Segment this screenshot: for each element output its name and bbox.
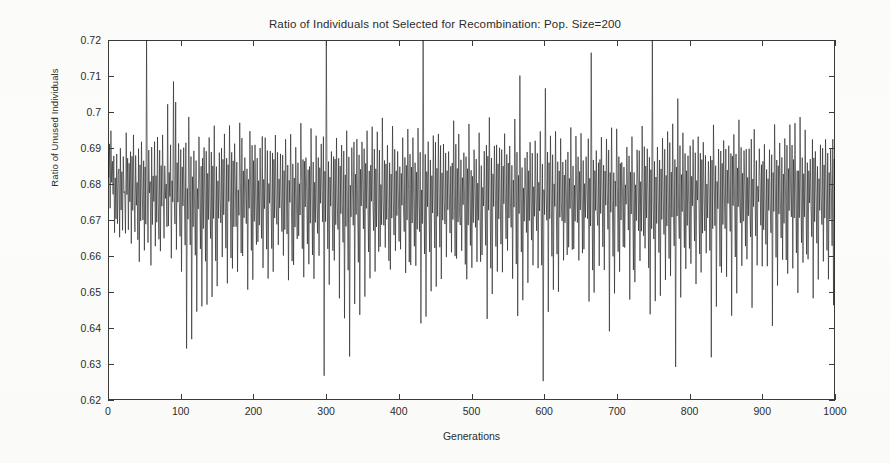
y-tick-mark	[829, 256, 835, 257]
y-tick-label: 0.68	[81, 178, 101, 190]
x-tick-mark	[253, 394, 254, 400]
y-tick-label: 0.65	[81, 286, 101, 298]
y-axis-label: Ratio of Unused Individuals	[49, 28, 60, 228]
y-tick-mark	[108, 184, 114, 185]
x-tick-mark	[472, 40, 473, 46]
y-tick-mark	[829, 76, 835, 77]
x-tick-label: 800	[681, 405, 699, 417]
chart-figure: Ratio of Individuals not Selected for Re…	[0, 0, 890, 463]
x-tick-mark	[762, 394, 763, 400]
y-tick-mark	[108, 76, 114, 77]
x-tick-mark	[472, 394, 473, 400]
x-tick-label: 900	[754, 405, 772, 417]
y-tick-label: 0.64	[81, 322, 101, 334]
x-tick-mark	[617, 40, 618, 46]
x-tick-label: 100	[172, 405, 190, 417]
x-tick-label: 600	[535, 405, 553, 417]
x-tick-mark	[835, 394, 836, 400]
y-tick-label: 0.62	[81, 394, 101, 406]
x-tick-label: 300	[317, 405, 335, 417]
x-tick-mark	[181, 40, 182, 46]
x-tick-mark	[181, 394, 182, 400]
y-tick-mark	[829, 364, 835, 365]
y-tick-mark	[108, 220, 114, 221]
y-tick-mark	[108, 112, 114, 113]
y-tick-mark	[108, 328, 114, 329]
x-tick-mark	[253, 40, 254, 46]
x-tick-mark	[399, 394, 400, 400]
y-tick-label: 0.72	[81, 34, 101, 46]
y-tick-mark	[829, 292, 835, 293]
plot-area: 0.620.630.640.650.660.670.680.690.70.710…	[108, 40, 835, 400]
x-tick-mark	[108, 40, 109, 46]
y-tick-label: 0.66	[81, 250, 101, 262]
x-tick-mark	[326, 40, 327, 46]
y-tick-label: 0.67	[81, 214, 101, 226]
x-tick-label: 1000	[823, 405, 846, 417]
x-tick-mark	[762, 40, 763, 46]
x-tick-mark	[544, 394, 545, 400]
x-tick-label: 400	[390, 405, 408, 417]
y-tick-mark	[829, 400, 835, 401]
y-tick-mark	[829, 148, 835, 149]
y-tick-mark	[829, 112, 835, 113]
y-tick-mark	[108, 148, 114, 149]
x-tick-mark	[690, 394, 691, 400]
y-tick-mark	[108, 400, 114, 401]
y-tick-mark	[829, 328, 835, 329]
y-tick-label: 0.69	[81, 142, 101, 154]
y-tick-label: 0.7	[86, 106, 101, 118]
y-tick-label: 0.63	[81, 358, 101, 370]
y-tick-mark	[829, 184, 835, 185]
x-axis-label: Generations	[108, 430, 835, 442]
x-tick-mark	[690, 40, 691, 46]
x-tick-label: 0	[105, 405, 111, 417]
y-tick-mark	[108, 364, 114, 365]
data-series-line	[108, 40, 835, 400]
y-tick-mark	[108, 256, 114, 257]
x-tick-mark	[326, 394, 327, 400]
x-tick-mark	[544, 40, 545, 46]
figure-page: Ratio of Individuals not Selected for Re…	[0, 0, 890, 463]
x-tick-label: 700	[608, 405, 626, 417]
y-tick-mark	[108, 292, 114, 293]
x-tick-label: 200	[245, 405, 263, 417]
x-tick-mark	[108, 394, 109, 400]
x-tick-label: 500	[463, 405, 481, 417]
x-tick-mark	[617, 394, 618, 400]
chart-title: Ratio of Individuals not Selected for Re…	[0, 18, 890, 30]
y-tick-mark	[829, 220, 835, 221]
y-tick-label: 0.71	[81, 70, 101, 82]
x-tick-mark	[399, 40, 400, 46]
x-tick-mark	[835, 40, 836, 46]
